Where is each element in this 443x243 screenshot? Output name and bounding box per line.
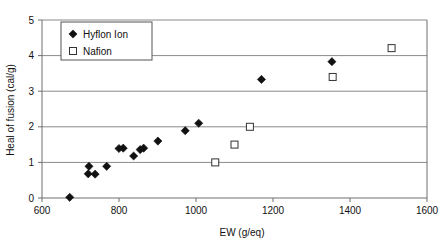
legend-marker-nafion <box>70 48 77 55</box>
data-point-hyflon-ion <box>85 162 93 170</box>
y-axis-title: Heal of fusion (cal/g) <box>5 64 16 156</box>
y-tick-label: 1 <box>28 157 34 168</box>
y-tick-label: 4 <box>28 50 34 61</box>
data-point-nafion <box>212 159 219 166</box>
data-point-nafion <box>231 141 238 148</box>
data-point-hyflon-ion <box>154 137 162 145</box>
data-point-nafion <box>246 123 253 130</box>
data-point-nafion <box>329 73 336 80</box>
x-tick-label: 1600 <box>416 205 439 216</box>
data-point-hyflon-ion <box>66 193 74 201</box>
data-point-hyflon-ion <box>328 58 336 66</box>
x-tick-label: 1200 <box>262 205 285 216</box>
x-tick-label: 1000 <box>185 205 208 216</box>
data-point-hyflon-ion <box>181 127 189 135</box>
data-points <box>66 45 395 202</box>
y-tick-label: 5 <box>28 15 34 26</box>
y-axis-ticks: 012345 <box>28 15 42 204</box>
chart-canvas: 6008001000120014001600 012345 Hyflon Ion… <box>0 0 443 243</box>
data-point-hyflon-ion <box>195 119 203 127</box>
data-point-hyflon-ion <box>91 170 99 178</box>
x-tick-label: 600 <box>34 205 51 216</box>
x-tick-label: 1400 <box>339 205 362 216</box>
legend-item-label: Nafion <box>83 46 112 57</box>
y-tick-label: 2 <box>28 121 34 132</box>
scatter-chart: 6008001000120014001600 012345 Hyflon Ion… <box>0 0 443 243</box>
chart-legend: Hyflon IonNafion <box>61 22 152 60</box>
x-axis-title: EW (g/eq) <box>219 227 264 238</box>
x-axis-ticks: 6008001000120014001600 <box>34 198 439 216</box>
x-tick-label: 800 <box>111 205 128 216</box>
data-point-hyflon-ion <box>130 152 138 160</box>
y-tick-label: 0 <box>28 193 34 204</box>
legend-item-label: Hyflon Ion <box>83 29 128 40</box>
y-tick-label: 3 <box>28 86 34 97</box>
data-point-hyflon-ion <box>103 162 111 170</box>
data-point-hyflon-ion <box>257 75 265 83</box>
data-point-nafion <box>388 45 395 52</box>
